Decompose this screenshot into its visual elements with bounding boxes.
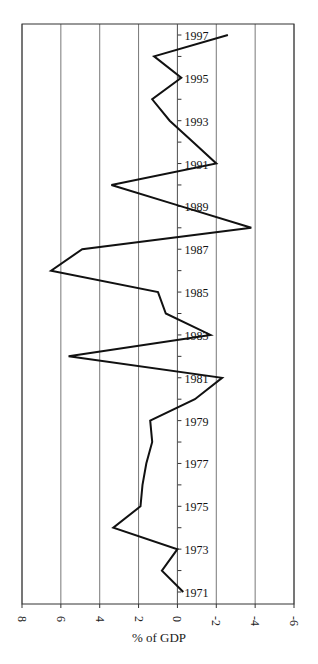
x-tick-label: 6 <box>54 616 68 622</box>
year-label: 1971 <box>184 586 208 600</box>
x-axis-ticks: 86420-2-4-6 <box>15 604 301 626</box>
gdp-line-chart: 1971197319751977197919811983198519871989… <box>0 0 318 664</box>
year-label: 1995 <box>184 72 208 86</box>
x-tick-label: -4 <box>248 616 262 626</box>
year-label: 1985 <box>184 286 208 300</box>
x-axis-label: % of GDP <box>0 630 318 646</box>
year-label: 1973 <box>184 543 208 557</box>
data-line <box>51 35 251 592</box>
x-tick-label: 0 <box>170 616 184 622</box>
vertical-gridlines <box>22 24 294 604</box>
x-tick-label: 2 <box>132 616 146 622</box>
x-tick-label: -6 <box>287 616 301 626</box>
x-tick-label: 4 <box>93 616 107 622</box>
year-label: 1993 <box>184 115 208 129</box>
plot-frame <box>22 24 294 604</box>
year-label: 1975 <box>184 500 208 514</box>
x-tick-label: 8 <box>15 616 29 622</box>
x-tick-label: -2 <box>209 616 223 626</box>
year-label: 1979 <box>184 415 208 429</box>
year-ticks: 1971197319751977197919811983198519871989… <box>177 24 208 604</box>
year-label: 1977 <box>184 457 208 471</box>
year-label: 1989 <box>184 200 208 214</box>
year-label: 1987 <box>184 243 208 257</box>
